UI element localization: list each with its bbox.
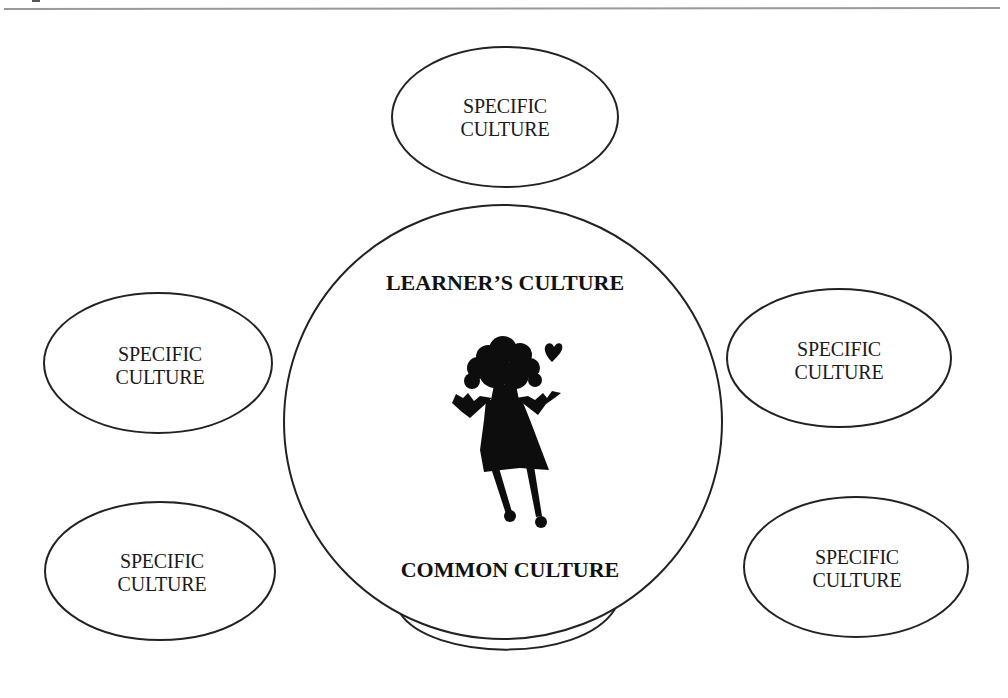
specific-culture-label-right-upper: SPECIFIC CULTURE <box>739 338 939 384</box>
specific-culture-label-top: SPECIFIC CULTURE <box>405 95 605 141</box>
specific-culture-label-right-lower: SPECIFIC CULTURE <box>757 546 957 592</box>
label-line-2: CULTURE <box>757 569 957 592</box>
label-line-1: SPECIFIC <box>62 550 262 573</box>
label-line-2: CULTURE <box>62 573 262 596</box>
label-line-1: SPECIFIC <box>405 95 605 118</box>
learner-culture-label: LEARNER’S CULTURE <box>345 270 665 296</box>
top-rule-divider <box>4 8 1000 9</box>
label-line-1: SPECIFIC <box>739 338 939 361</box>
diagram-canvas: LEARNER’S CULTURE COMMON CULTURE SPECIFI… <box>0 0 1008 698</box>
label-line-1: SPECIFIC <box>60 343 260 366</box>
specific-culture-label-left-lower: SPECIFIC CULTURE <box>62 550 262 596</box>
label-line-2: CULTURE <box>405 118 605 141</box>
label-line-1: SPECIFIC <box>757 546 957 569</box>
specific-culture-label-left-upper: SPECIFIC CULTURE <box>60 343 260 389</box>
label-line-2: CULTURE <box>60 366 260 389</box>
label-line-2: CULTURE <box>739 361 939 384</box>
common-culture-label: COMMON CULTURE <box>350 557 670 583</box>
